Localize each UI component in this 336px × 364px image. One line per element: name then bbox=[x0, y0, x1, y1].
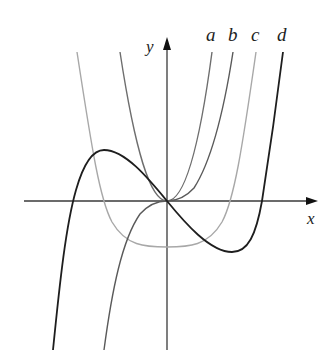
graph-figure: y x a b c d bbox=[0, 0, 336, 364]
curve-a bbox=[120, 52, 212, 201]
curve-label-c: c bbox=[251, 24, 260, 45]
x-axis-label: x bbox=[306, 209, 315, 228]
curve-label-b: b bbox=[228, 24, 238, 45]
x-axis-arrow-icon bbox=[306, 197, 318, 205]
axes bbox=[24, 37, 318, 350]
y-axis-label: y bbox=[144, 37, 154, 56]
curve-label-a: a bbox=[206, 24, 216, 45]
curve-label-d: d bbox=[277, 24, 287, 45]
y-axis-arrow-icon bbox=[163, 37, 171, 50]
